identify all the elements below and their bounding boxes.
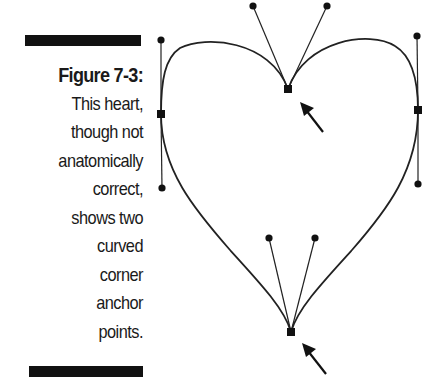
handle-point-icon xyxy=(323,2,330,9)
handle-point-icon xyxy=(413,32,420,39)
handle-point-icon xyxy=(265,234,272,241)
anchor-point-icon xyxy=(414,106,422,114)
handle-line xyxy=(288,6,327,89)
arrow-icon xyxy=(300,102,323,132)
anchor-point-icon xyxy=(157,110,165,118)
anchor-point-icon xyxy=(284,85,292,93)
arrow-icon xyxy=(302,343,326,374)
handle-point-icon xyxy=(249,2,256,9)
handle-point-icon xyxy=(158,184,165,191)
handle-line xyxy=(269,238,291,332)
heart-diagram xyxy=(0,0,440,391)
handle-line xyxy=(253,6,288,89)
handle-point-icon xyxy=(311,234,318,241)
handle-point-icon xyxy=(414,180,421,187)
handle-point-icon xyxy=(157,36,164,43)
handle-line xyxy=(291,238,315,332)
anchor-point-icon xyxy=(287,328,295,336)
heart-path xyxy=(161,39,418,332)
